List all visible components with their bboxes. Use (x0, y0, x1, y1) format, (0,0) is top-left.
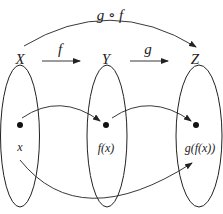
set-z-label: Z (191, 52, 199, 67)
point-gfx (193, 122, 199, 128)
set-x-ellipse (1, 65, 40, 207)
mapping-x-to-gfx (20, 160, 192, 198)
composition-diagram: g ∘ f X f Y g Z x f(x) g(f(x)) (0, 0, 223, 214)
element-fx-label: f(x) (98, 142, 115, 154)
arrow-g-compose-f (24, 20, 196, 47)
set-y-ellipse (87, 65, 127, 207)
arrow-f-label: f (58, 42, 62, 57)
element-x-label: x (17, 141, 22, 153)
set-z-ellipse (176, 65, 222, 207)
arrow-g-label: g (144, 42, 152, 57)
diagram-graphics (0, 0, 223, 214)
set-y-label: Y (102, 52, 110, 67)
set-x-label: X (15, 52, 24, 67)
mapping-fx-to-gfx (112, 106, 191, 121)
point-x (17, 122, 23, 128)
element-gfx-label: g(f(x)) (185, 142, 216, 154)
composite-label: g ∘ f (97, 8, 124, 23)
point-fx (103, 122, 109, 128)
